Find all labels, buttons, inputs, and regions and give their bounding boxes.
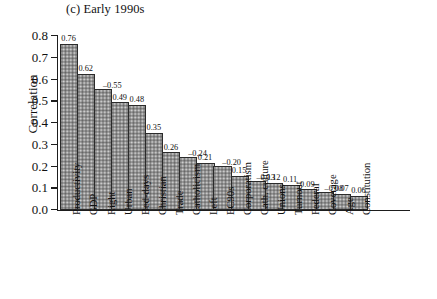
y-axis-tick (51, 57, 57, 58)
bar-value-label: 0.76 (61, 35, 76, 43)
y-axis-tick (51, 187, 57, 188)
x-axis-label: Christian (158, 176, 169, 215)
chart-figure: (c) Early 1990s Correlation 0.80.70.60.5… (0, 0, 437, 299)
y-axis-tick-label: 0.5 (0, 94, 48, 107)
y-axis-tick-label: 0.0 (0, 203, 48, 216)
x-axis-label: Cath. culture (260, 160, 271, 215)
bar-value-label: 0.26 (164, 144, 179, 152)
y-axis-line (57, 35, 58, 211)
y-axis-tick (51, 35, 57, 36)
x-axis-label: Bed-days (141, 175, 152, 215)
bar-value-label: –0.55 (103, 82, 122, 90)
x-axis-label: Catholicism (192, 163, 203, 214)
x-axis-label: Productivity (72, 162, 83, 214)
y-axis-tick (51, 209, 57, 210)
x-axis-label: GDP (89, 193, 100, 214)
y-axis-tick (51, 122, 57, 123)
x-axis-label: Right (107, 191, 118, 215)
y-axis-tick (51, 144, 57, 145)
x-axis-label: Age (345, 197, 356, 215)
y-axis-tick-label: 0.1 (0, 181, 48, 194)
y-axis-tick-label: 0.3 (0, 138, 48, 151)
bar-value-label: 0.48 (130, 96, 145, 104)
x-axis-label: Trade (175, 190, 186, 214)
y-axis-tick-label: 0.2 (0, 160, 48, 173)
y-axis-tick (51, 100, 57, 101)
y-axis-tick-label: 0.4 (0, 116, 48, 129)
y-axis-tick-label: 0.6 (0, 73, 48, 86)
bar-value-label: 0.49 (113, 94, 128, 102)
y-axis-tick (51, 166, 57, 167)
y-axis-tick (51, 79, 57, 80)
x-axis-label: EC90s (226, 186, 237, 214)
x-axis-label: Federal (311, 183, 322, 215)
x-axis-label: Corporatism (243, 162, 254, 215)
y-axis-tick-label: 0.8 (0, 29, 48, 42)
x-axis-label: Urban (124, 188, 135, 214)
bar-series (60, 35, 368, 210)
bar-value-label: 0.35 (147, 124, 162, 132)
y-axis-tick-label: 0.7 (0, 51, 48, 64)
x-axis-label: Coverage (328, 174, 339, 215)
x-axis-label: Left (209, 197, 220, 215)
plot-area: 0.80.70.60.50.40.30.20.10.0 0.760.62–0.5… (0, 0, 437, 299)
x-axis-label: Unions (277, 184, 288, 215)
bar-value-label: 0.62 (78, 65, 93, 73)
bar-value-label: 0.21 (198, 154, 213, 162)
x-axis-label: Constitution (362, 162, 373, 214)
x-axis-label: Turnout (294, 181, 305, 215)
